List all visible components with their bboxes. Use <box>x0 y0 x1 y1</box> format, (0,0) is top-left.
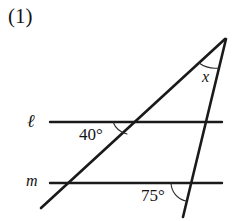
line-label-l: ℓ <box>27 112 35 130</box>
angle-label-75: 75° <box>141 187 165 204</box>
angle-arc-75 <box>171 183 186 201</box>
problem-number: (1) <box>8 6 33 27</box>
angle-label-40: 40° <box>79 126 103 143</box>
angle-label-x: x <box>202 69 209 85</box>
geometry-figure: (1) ℓ m 40° 75° x <box>0 0 247 221</box>
line-label-m: m <box>26 173 38 189</box>
